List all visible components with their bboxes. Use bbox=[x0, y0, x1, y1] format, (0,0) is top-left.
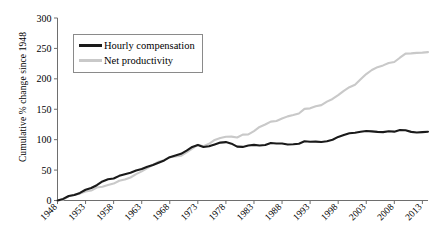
x-tick-label: 1958 bbox=[95, 202, 116, 223]
data-series-group bbox=[58, 52, 429, 200]
legend-swatch-hourly-compensation bbox=[79, 44, 102, 46]
legend-item-hourly-compensation: Hourly compensation bbox=[79, 38, 195, 53]
x-axis: 1948195319581963196819731978198319881993… bbox=[38, 201, 428, 223]
x-tick-label: 1998 bbox=[319, 202, 340, 223]
x-tick-label: 1963 bbox=[123, 202, 144, 223]
y-tick-label: 150 bbox=[37, 104, 52, 115]
x-tick-label: 1978 bbox=[207, 202, 228, 223]
x-tick-label: 1993 bbox=[291, 202, 312, 223]
x-tick-label: 1968 bbox=[151, 202, 172, 223]
y-tick-label: 100 bbox=[37, 134, 52, 145]
x-tick-label: 1988 bbox=[263, 202, 284, 223]
productivity-pay-chart: Cumulative % change since 1948 050100150… bbox=[0, 0, 433, 248]
chart-legend: Hourly compensation Net productivity bbox=[73, 34, 203, 73]
x-tick-label: 1983 bbox=[235, 202, 256, 223]
y-axis: 050100150200250300 bbox=[37, 13, 58, 207]
series-line-hourly-compensation bbox=[58, 130, 429, 200]
x-tick-label: 1973 bbox=[179, 202, 200, 223]
x-tick-label: 2008 bbox=[375, 202, 396, 223]
x-tick-label: 1948 bbox=[38, 202, 59, 223]
x-tick-label: 2003 bbox=[347, 202, 368, 223]
x-tick-label: 2013 bbox=[403, 202, 424, 223]
legend-label-hourly-compensation: Hourly compensation bbox=[104, 39, 195, 52]
legend-label-net-productivity: Net productivity bbox=[104, 54, 173, 67]
y-tick-label: 50 bbox=[42, 165, 52, 176]
y-tick-label: 250 bbox=[37, 43, 52, 54]
chart-plot-area: 050100150200250300 194819531958196319681… bbox=[0, 0, 433, 248]
legend-swatch-net-productivity bbox=[79, 59, 102, 61]
y-tick-label: 200 bbox=[37, 73, 52, 84]
legend-item-net-productivity: Net productivity bbox=[79, 53, 195, 68]
x-tick-label: 1953 bbox=[66, 202, 87, 223]
y-tick-label: 300 bbox=[37, 13, 52, 24]
